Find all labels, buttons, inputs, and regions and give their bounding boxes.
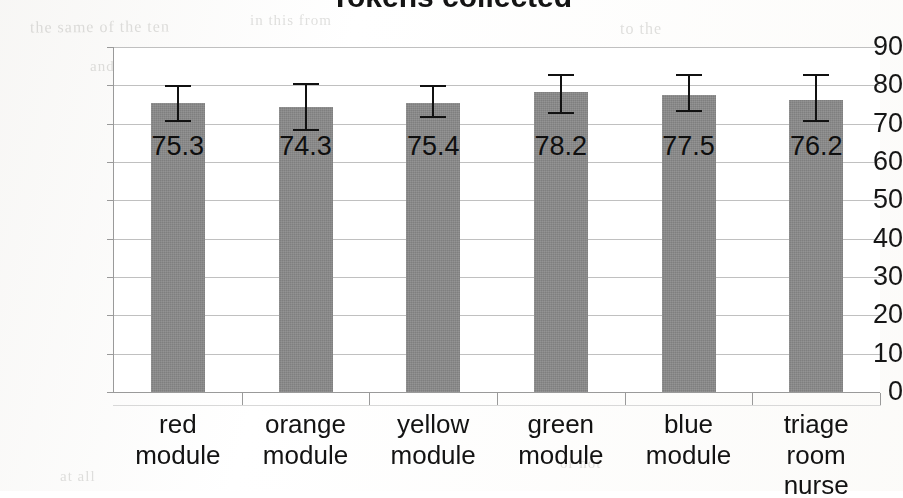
error-bar-cap-upper [420,85,446,87]
gridline-20 [114,315,880,316]
x-axis-category-label: triage room nurse [752,409,880,498]
y-tick-label-40: 40 [807,225,903,252]
y-tick-label-90: 90 [807,33,903,60]
y-tick-label-80: 80 [807,71,903,98]
y-tick-label-0: 0 [807,378,903,405]
y-tick-label-10: 10 [807,340,903,367]
chart-title: Tokens collected [0,0,903,14]
y-tick-50 [107,200,114,201]
error-bar-stem [688,74,690,110]
error-bar-cap-lower [548,112,574,114]
x-axis-category-label: red module [114,409,242,470]
x-axis-lower-rule [113,405,881,406]
gridline-70 [114,124,880,125]
x-tick [752,393,753,405]
y-tick-label-60: 60 [807,148,903,175]
error-bar-stem [305,83,307,129]
gridline-30 [114,277,880,278]
x-axis-category-label: green module [497,409,625,470]
plot-area: 75.374.375.478.277.576.2 [114,47,880,392]
y-tick-60 [107,162,114,163]
y-tick-20 [107,315,114,316]
plot-background [114,47,880,392]
y-tick-70 [107,124,114,125]
x-tick [625,393,626,405]
y-tick-label-30: 30 [807,263,903,290]
x-tick [880,393,881,405]
bar-value-label: 77.5 [643,133,735,160]
error-bar-stem [432,85,434,116]
error-bar-cap-lower [165,120,191,122]
error-bar-stem [560,74,562,112]
gridline-50 [114,200,880,201]
x-tick [242,393,243,405]
x-tick [497,393,498,405]
y-tick-30 [107,277,114,278]
y-tick-label-70: 70 [807,110,903,137]
gridline-60 [114,162,880,163]
bar-value-label: 75.3 [132,133,224,160]
error-bar-cap-upper [548,74,574,76]
gridline-90 [114,47,880,48]
x-axis-category-label: orange module [242,409,370,470]
x-axis-category-label: blue module [625,409,753,470]
gridline-80 [114,85,880,86]
x-tick [369,393,370,405]
gridline-40 [114,239,880,240]
y-tick-0 [107,392,114,393]
y-tick-40 [107,239,114,240]
error-bar-stem [177,85,179,120]
error-bar-cap-upper [165,85,191,87]
x-axis-category-label: yellow module [369,409,497,470]
error-bar-cap-lower [676,110,702,112]
y-tick-10 [107,354,114,355]
bar-value-label: 78.2 [515,133,607,160]
y-tick-label-20: 20 [807,301,903,328]
error-bar-cap-upper [293,83,319,85]
bar-value-label: 74.3 [260,133,352,160]
gridline-10 [114,354,880,355]
error-bar-cap-lower [293,129,319,131]
error-bar-cap-upper [676,74,702,76]
y-tick-label-50: 50 [807,186,903,213]
y-tick-80 [107,85,114,86]
y-tick-90 [107,47,114,48]
error-bar-cap-lower [420,116,446,118]
bar-value-label: 75.4 [387,133,479,160]
